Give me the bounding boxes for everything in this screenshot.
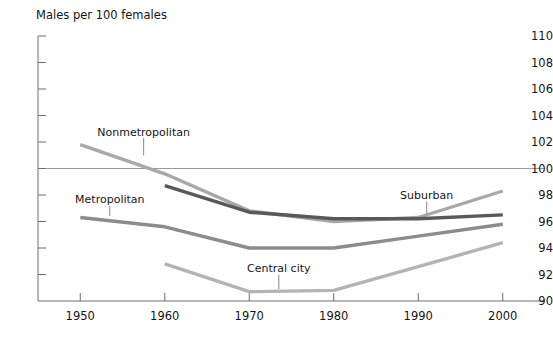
- series-label-central-city: Central city: [247, 262, 310, 275]
- y-tick-label: 98: [523, 188, 553, 202]
- y-tick-label: 106: [523, 82, 553, 96]
- series-line-metropolitan: [80, 218, 503, 249]
- x-tick-label: 1960: [150, 309, 179, 323]
- series-line-central-city: [165, 243, 503, 292]
- y-tick-label: 100: [523, 162, 553, 176]
- x-tick-label: 1990: [404, 309, 433, 323]
- y-tick-label: 104: [523, 109, 553, 123]
- plot-area: [0, 0, 553, 342]
- y-tick-label: 102: [523, 135, 553, 149]
- series-label-nonmetropolitan: Nonmetropolitan: [97, 126, 190, 139]
- y-tick-label: 94: [523, 241, 553, 255]
- y-tick-label: 110: [523, 29, 553, 43]
- series-label-metropolitan: Metropolitan: [75, 193, 144, 206]
- y-tick-label: 92: [523, 268, 553, 282]
- y-tick-label: 96: [523, 215, 553, 229]
- x-tick-label: 1950: [66, 309, 95, 323]
- y-axis-title: Males per 100 females: [36, 8, 167, 22]
- x-tick-label: 1970: [235, 309, 264, 323]
- chart-root: Males per 100 females 909294969810010210…: [0, 0, 553, 342]
- series-line-nonmetropolitan: [80, 145, 503, 222]
- series-label-suburban: Suburban: [400, 189, 453, 202]
- y-tick-label: 90: [523, 294, 553, 308]
- x-tick-label: 1980: [319, 309, 348, 323]
- x-tick-label: 2000: [488, 309, 517, 323]
- y-tick-label: 108: [523, 56, 553, 70]
